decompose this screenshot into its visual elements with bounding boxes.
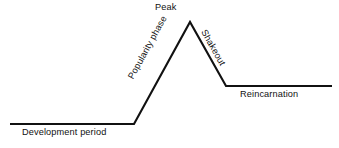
lifecycle-curve-figure: Development period Popularity phase Peak… (0, 0, 339, 148)
label-development-period: Development period (22, 128, 106, 137)
label-reincarnation: Reincarnation (240, 90, 298, 99)
lifecycle-curve-path (10, 22, 332, 124)
label-peak: Peak (155, 3, 176, 12)
lifecycle-curve-chart (0, 0, 339, 148)
